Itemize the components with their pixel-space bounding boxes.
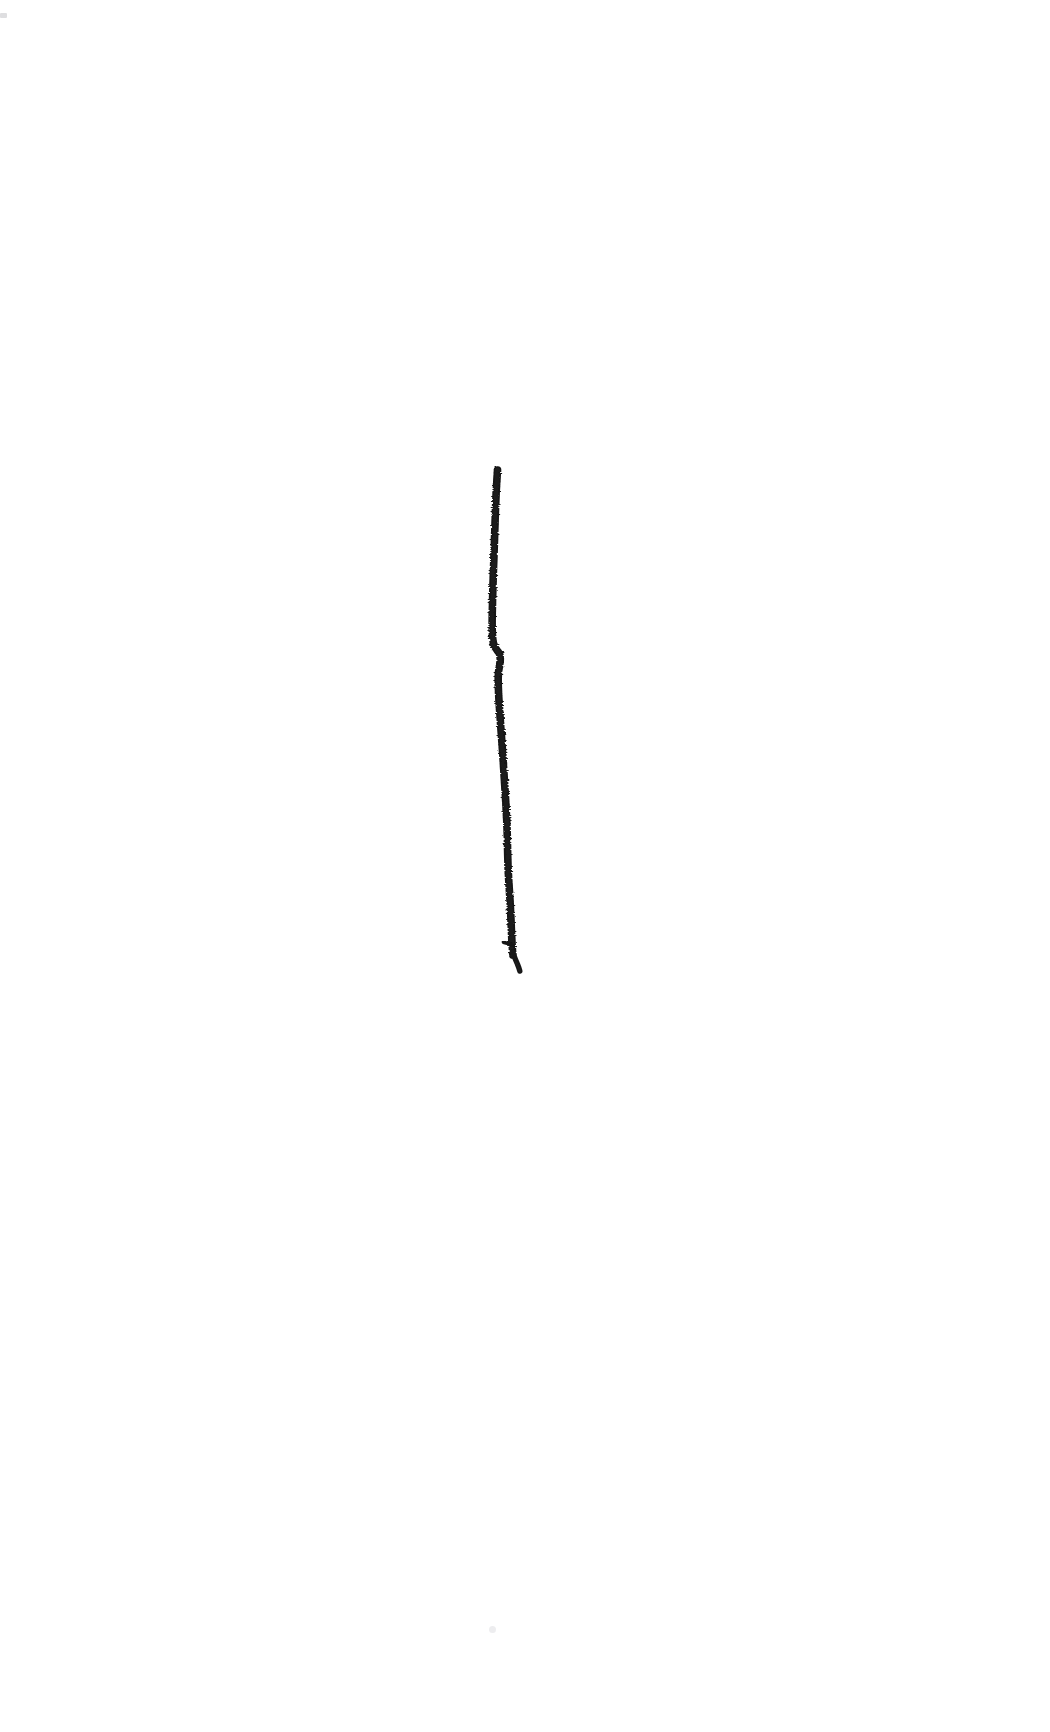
ink-stroke-layer <box>0 0 1050 1732</box>
page-canvas: Vertical ink stroke <box>0 0 1050 1732</box>
lower-page-speck <box>489 1626 496 1633</box>
stroke-tail-group <box>513 952 520 971</box>
edge-artifact-speck <box>0 13 7 18</box>
stroke-hook-barb-path <box>504 942 512 946</box>
stroke-main-group <box>492 470 513 954</box>
stroke-barb-group <box>504 942 512 946</box>
